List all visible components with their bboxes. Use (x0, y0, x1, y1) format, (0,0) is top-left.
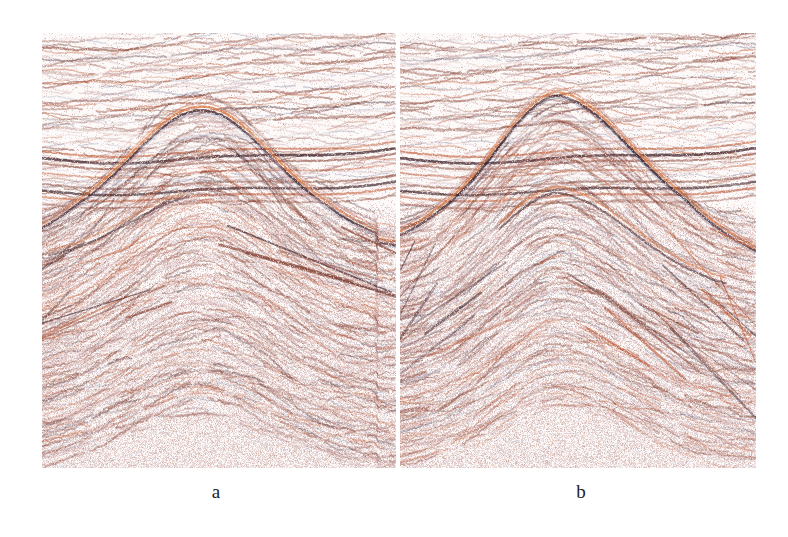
panel-caption-b: b (561, 481, 601, 503)
seismic-image-b (400, 33, 756, 468)
panel-caption-a: a (196, 481, 236, 503)
seismic-image-a (42, 33, 396, 468)
seismic-panel-a (42, 33, 396, 468)
seismic-panel-b (400, 33, 756, 468)
figure-root: a b (0, 0, 788, 537)
